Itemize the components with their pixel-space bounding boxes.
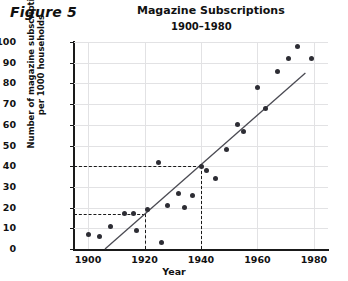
y-axis-tick-label: 90 — [0, 58, 16, 68]
y-axis-label-line-1: Number of magazine subscriptions — [26, 0, 36, 149]
data-point — [176, 191, 181, 196]
x-axis-tick-label: 1900 — [68, 255, 108, 265]
trend-line — [74, 42, 328, 249]
x-axis-tick-label: 1960 — [237, 255, 277, 265]
x-axis-tick-label: 1980 — [294, 255, 334, 265]
y-axis-tick-mark — [70, 125, 74, 126]
y-axis-tick-mark — [70, 166, 74, 167]
y-axis-label-line-2: per 1000 households — [36, 15, 46, 115]
data-point — [108, 224, 113, 229]
y-axis-tick-label: 70 — [0, 99, 16, 109]
x-axis-tick-label: 1920 — [125, 255, 165, 265]
data-point — [190, 193, 195, 198]
data-point — [275, 69, 280, 74]
y-axis-tick-label: 30 — [0, 182, 16, 192]
y-axis-tick-mark — [70, 249, 74, 250]
y-axis-tick-mark — [70, 208, 74, 209]
x-axis-tick-label: 1940 — [181, 255, 221, 265]
data-point — [309, 56, 314, 61]
x-axis-label: Year — [0, 266, 348, 277]
chart-title: Magazine Subscriptions — [137, 4, 285, 17]
data-point — [165, 203, 170, 208]
y-axis-tick-label: 50 — [0, 141, 16, 151]
y-axis-tick-mark — [70, 187, 74, 188]
plot-area: 19001920194019601980 — [74, 42, 328, 249]
y-axis-tick-label: 10 — [0, 223, 16, 233]
y-axis-tick-mark — [70, 104, 74, 105]
data-point — [134, 228, 139, 233]
data-point — [199, 164, 204, 169]
trend-line-segment — [105, 73, 305, 249]
data-point — [182, 205, 187, 210]
data-point — [295, 44, 300, 49]
y-axis-tick-label: 80 — [0, 78, 16, 88]
chart-subtitle: 1900–1980 — [171, 21, 232, 32]
y-axis-tick-mark — [70, 228, 74, 229]
data-point — [204, 168, 209, 173]
data-point — [156, 160, 161, 165]
data-point — [224, 147, 229, 152]
data-point — [97, 234, 102, 239]
data-point — [86, 232, 91, 237]
y-axis-tick-label: 20 — [0, 203, 16, 213]
y-axis-tick-label: 60 — [0, 120, 16, 130]
data-point — [213, 176, 218, 181]
y-axis-label: Number of magazine subscriptions per 100… — [19, 0, 53, 163]
y-axis-tick-mark — [70, 83, 74, 84]
y-axis-tick-mark — [70, 63, 74, 64]
y-axis-tick-label: 40 — [0, 161, 16, 171]
y-axis-tick-mark — [70, 146, 74, 147]
y-axis-tick-label: 0 — [0, 244, 16, 254]
figure-container: Figure 5 Magazine Subscriptions 1900–198… — [0, 0, 348, 281]
y-axis-tick-mark — [70, 42, 74, 43]
data-point — [241, 129, 246, 134]
y-axis-tick-label: 100 — [0, 37, 16, 47]
x-axis-line — [73, 249, 329, 251]
data-point — [255, 85, 260, 90]
